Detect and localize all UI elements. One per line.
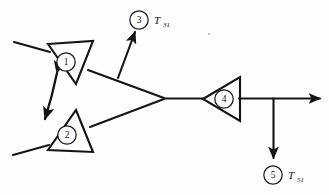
flow-diagram-svg: 1 2 3 4 5 T 31 T 51 (0, 0, 329, 195)
label-T51-base: T (288, 169, 295, 181)
label-T51: T 51 (288, 169, 304, 184)
node-label-4: 4 (222, 94, 227, 104)
coupling-arrow-1-2 (45, 73, 57, 119)
node-label-5: 5 (271, 170, 276, 180)
input-lead-lower (13, 145, 49, 155)
input-lead-upper (14, 42, 50, 52)
node-label-1: 1 (64, 57, 69, 67)
label-T31: T 31 (154, 14, 170, 29)
node-label-3: 3 (137, 15, 142, 25)
branch-line-to-node-3 (118, 32, 135, 78)
label-T31-subscript: 31 (162, 21, 170, 29)
paper-speck (208, 33, 210, 35)
link-block2-to-junction (90, 99, 164, 127)
link-block1-to-junction (88, 70, 164, 98)
diagram-canvas: 1 2 3 4 5 T 31 T 51 (0, 0, 329, 195)
label-T31-base: T (154, 14, 161, 26)
label-T51-subscript: 51 (297, 176, 304, 184)
node-label-2: 2 (65, 130, 70, 140)
